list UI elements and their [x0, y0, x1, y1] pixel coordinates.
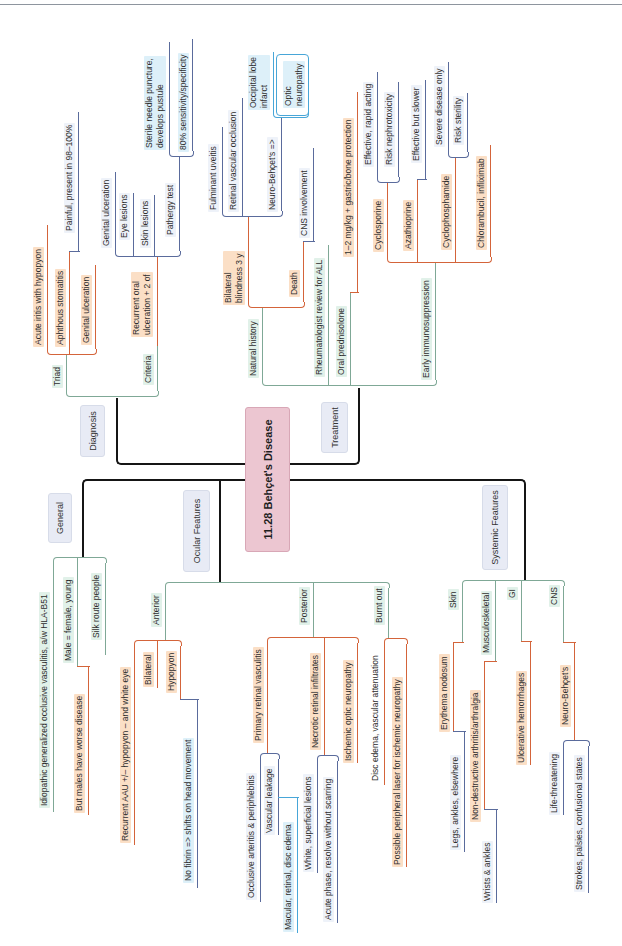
- node-occlusive-arteritis: Occlusive arteritis & periphlebitis: [246, 773, 257, 900]
- underline: [313, 148, 314, 242]
- node-triad: Triad: [52, 365, 63, 388]
- node-criteria-eye: Eye lesions: [119, 193, 130, 240]
- underline: [337, 761, 338, 923]
- node-azathioprine: Azathioprine: [403, 200, 414, 251]
- node-male-female: Male = female, young: [63, 577, 74, 663]
- central-topic: 11.28 Behçet's Disease: [245, 407, 290, 552]
- underline: [297, 798, 298, 933]
- underline: [179, 157, 180, 251]
- node-posterior: Posterior: [299, 587, 310, 625]
- node-silk-route: Silk route people: [91, 573, 102, 640]
- underline: [165, 588, 166, 640]
- page-border-line: [0, 4, 622, 5]
- node-skin: Skin: [448, 589, 459, 610]
- node-primary-retinal-vasculitis: Primary retinal vasculitis: [253, 647, 264, 743]
- underline: [317, 761, 318, 873]
- underline-criteria: [157, 346, 158, 391]
- underline: [88, 667, 89, 815]
- node-neuro-behcets-arrow: Neuro-Behçet's =>: [267, 137, 278, 212]
- branch-systemic-features: Systemic Features: [482, 485, 508, 570]
- underline: [417, 180, 418, 263]
- mind-map: 11.28 Behçet's Disease Diagnosis Treatme…: [0, 0, 622, 946]
- central-topic-title: 11.28 Behçet's Disease: [262, 419, 274, 539]
- elbow: [484, 661, 497, 662]
- underline: [425, 80, 426, 180]
- underline: [69, 252, 70, 355]
- bracket-triad: [47, 349, 97, 355]
- underline: [281, 118, 282, 211]
- underline: [448, 62, 449, 152]
- underline: [248, 217, 249, 302]
- bracket-general: [53, 557, 107, 563]
- node-acute-iritis: Acute iritis with hypopyon: [33, 247, 44, 347]
- underline: [574, 643, 575, 740]
- node-optic-neuropathy: Optic neuropathy: [283, 61, 305, 108]
- node-aphthous-stomatitis: Aphthous stomatitis: [55, 269, 66, 347]
- node-prednisolone-dose: 1–2 mg/kg + gastric/bone protection: [343, 118, 354, 257]
- node-cyclophosphamide-note: Severe disease only: [434, 66, 445, 147]
- node-cyclosporine-risk: Risk nephrotoxicity: [384, 92, 395, 167]
- underline: [262, 308, 263, 380]
- underline: [387, 183, 388, 257]
- underline: [133, 193, 134, 257]
- node-azathioprine-note: Effective but slower: [411, 85, 422, 163]
- bracket-neuro-behcets: [563, 740, 590, 746]
- node-arthritis: Non-destructive arthritis/arthralgia: [470, 690, 481, 822]
- underline: [303, 242, 304, 302]
- node-burnt-out: Burnt out: [374, 587, 385, 626]
- node-death: Death: [289, 270, 300, 297]
- bracket-cyclophosphamide: [448, 152, 469, 158]
- underline: [273, 52, 274, 112]
- node-criteria-skin: Skin lesions: [140, 199, 151, 248]
- elbow: [453, 642, 464, 643]
- node-cyclophosphamide-risk: Risk sterility: [453, 96, 464, 145]
- node-macular-edema: Macular, retinal, disc edema: [283, 822, 294, 932]
- underline: [95, 265, 96, 349]
- underline: [78, 112, 79, 252]
- branch-label: Systemic Features: [490, 490, 500, 565]
- underline: [180, 646, 181, 700]
- node-neuro-behcets: Neuro-Behçet's: [560, 665, 571, 727]
- underline-triad: [66, 355, 67, 391]
- node-bilateral: Bilateral: [143, 652, 154, 687]
- underline: [105, 563, 106, 655]
- node-males-worse: But males have worse disease: [74, 694, 85, 813]
- underline-recurrent-oral: [157, 257, 158, 346]
- node-acute-phase: Acute phase, resolve without scarring: [323, 777, 334, 922]
- underline: [267, 643, 268, 753]
- node-pathergy-sensitivity: 80% sensitivity/specificity: [178, 53, 189, 152]
- bracket-natural-history: [248, 302, 305, 308]
- node-chlorambucil-infliximab: Chlorambucil, infliximab: [476, 156, 487, 250]
- underline: [563, 746, 564, 815]
- connector-diagnosis: [116, 398, 238, 465]
- underline: [357, 643, 358, 763]
- node-cns-involvement: CNS involvement: [299, 168, 310, 238]
- node-early-immunosuppression: Early immunosuppression: [421, 278, 432, 380]
- node-peripheral-laser: Possible peripheral laser for ischemic n…: [392, 677, 403, 867]
- underline: [242, 98, 243, 217]
- bracket-posterior: [267, 637, 359, 643]
- underline: [496, 810, 497, 903]
- node-recurrent-aau: Recurrent AAU +/– hypopyon – and white e…: [120, 667, 131, 843]
- underline: [197, 700, 198, 888]
- underline: [490, 145, 491, 257]
- underline: [260, 759, 261, 902]
- node-hypopyon: Hypopyon: [166, 651, 177, 693]
- node-oral-prednisolone: Oral prednisolone: [336, 306, 347, 377]
- node-rheumatologist: Rheumatologist review for ALL: [314, 258, 325, 377]
- branch-label: Ocular Features: [192, 499, 202, 564]
- underline: [484, 662, 485, 810]
- node-criteria: Criteria: [143, 354, 154, 385]
- node-no-fibrin: No fibrin => shifts on head movement: [183, 738, 194, 883]
- branch-ocular-features: Ocular Features: [183, 490, 210, 572]
- bracket-necrotic: [317, 755, 339, 761]
- node-anterior: Anterior: [151, 593, 162, 627]
- node-necrotic-retinal-infiltrates: Necrotic retinal infiltrates: [310, 653, 321, 750]
- node-idiopathic-vasculitis: Idiopathic generalized occlusive vasculi…: [39, 592, 50, 808]
- underline: [453, 643, 454, 732]
- connector-ocular: [219, 479, 221, 582]
- underline: [169, 42, 170, 151]
- underline: [77, 557, 78, 667]
- underline: [435, 263, 436, 380]
- node-cyclophosphamide: Cyclophosphamide: [441, 174, 452, 250]
